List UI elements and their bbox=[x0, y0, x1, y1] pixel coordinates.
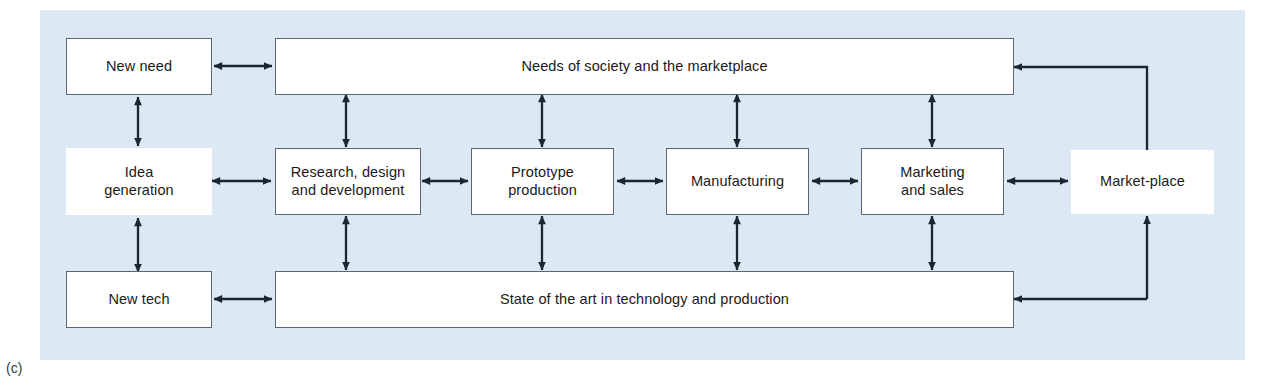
node-new-tech-label: New tech bbox=[103, 291, 174, 308]
node-idea-generation[interactable]: Idea generation bbox=[66, 148, 212, 215]
node-prototype-production[interactable]: Prototype production bbox=[471, 148, 614, 215]
node-new-tech[interactable]: New tech bbox=[66, 271, 212, 328]
node-needs-of-society[interactable]: Needs of society and the marketplace bbox=[275, 38, 1014, 95]
node-market-place[interactable]: Market-place bbox=[1071, 150, 1214, 214]
figure-canvas: New need Needs of society and the market… bbox=[0, 0, 1281, 385]
node-state-of-the-art-label: State of the art in technology and produ… bbox=[495, 291, 794, 308]
node-marketing-and-sales[interactable]: Marketing and sales bbox=[861, 148, 1004, 215]
node-prototype-production-label: Prototype production bbox=[503, 164, 582, 198]
node-needs-of-society-label: Needs of society and the marketplace bbox=[516, 58, 772, 75]
node-state-of-the-art[interactable]: State of the art in technology and produ… bbox=[275, 271, 1014, 328]
node-marketing-and-sales-label: Marketing and sales bbox=[895, 164, 970, 198]
node-manufacturing-label: Manufacturing bbox=[686, 173, 789, 190]
node-new-need[interactable]: New need bbox=[66, 38, 212, 95]
node-new-need-label: New need bbox=[101, 58, 177, 75]
node-market-place-label: Market-place bbox=[1095, 173, 1190, 190]
node-manufacturing[interactable]: Manufacturing bbox=[666, 148, 809, 215]
figure-caption: (c) bbox=[6, 360, 22, 376]
node-research-design-label: Research, design and development bbox=[286, 164, 410, 198]
node-idea-generation-label: Idea generation bbox=[99, 164, 179, 198]
node-research-design[interactable]: Research, design and development bbox=[275, 148, 421, 215]
